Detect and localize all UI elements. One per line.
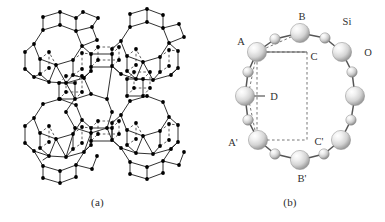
framework-svg xyxy=(0,0,195,196)
silicon-atom-A xyxy=(247,42,266,61)
panel-b-ring: A B C D A' B' C' Si O xyxy=(195,0,385,222)
framework-vertices xyxy=(23,7,186,185)
label-Si: Si xyxy=(343,16,352,27)
label-D: D xyxy=(270,91,278,102)
silicon-atom-Ap xyxy=(248,130,267,149)
panel-b-caption: (b) xyxy=(195,196,385,208)
silicon-atom xyxy=(345,86,364,105)
label-B: B xyxy=(298,11,305,22)
oxygen-atom xyxy=(270,149,280,159)
label-A-prime: A' xyxy=(228,137,238,148)
silicon-atom-Bp xyxy=(290,150,309,169)
panel-a-caption: (a) xyxy=(0,196,195,208)
oxygen-atom xyxy=(243,115,253,125)
silicon-atoms xyxy=(235,23,364,169)
label-A: A xyxy=(237,36,245,47)
label-B-prime: B' xyxy=(298,173,307,184)
figure-root: A B C D A' B' C' Si O (a) (b) xyxy=(0,0,385,222)
oxygen-atom xyxy=(320,33,330,43)
oxygen-atom xyxy=(347,67,357,77)
silicon-atom-O-label xyxy=(332,42,351,61)
label-C-prime: C' xyxy=(315,136,324,147)
silicon-atom-D xyxy=(235,86,254,105)
label-O: O xyxy=(364,47,372,58)
label-C: C xyxy=(310,51,317,62)
oxygen-atom xyxy=(346,115,356,125)
oxygen-atom xyxy=(319,149,329,159)
oxygen-atom xyxy=(270,34,280,44)
panel-a-framework xyxy=(0,0,195,222)
ring-svg: A B C D A' B' C' Si O xyxy=(195,0,385,196)
oxygen-atom xyxy=(243,67,253,77)
silicon-atom-B xyxy=(290,23,309,42)
silicon-atom xyxy=(331,130,350,149)
